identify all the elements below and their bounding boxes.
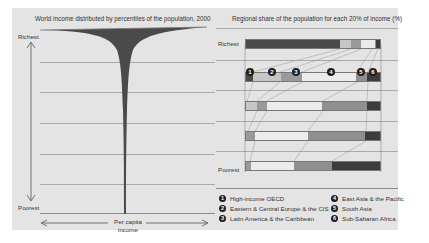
segment-ssa bbox=[367, 102, 380, 110]
legend-label: High-income OECD bbox=[230, 195, 284, 202]
legend-badge-6: 6 bbox=[331, 215, 338, 222]
badge-2: 2 bbox=[268, 68, 276, 76]
legend-badge-2: 2 bbox=[219, 205, 226, 212]
badge-3: 3 bbox=[292, 68, 300, 76]
segment-eap bbox=[251, 162, 294, 170]
legend-label: South Asia bbox=[342, 205, 372, 212]
legend-item-sa: 5 South Asia bbox=[331, 205, 372, 212]
segment-ssa bbox=[365, 132, 380, 140]
segment-lac bbox=[246, 132, 255, 140]
legend-item-eeca: 2 Eastern & Central Europe & the CIS bbox=[219, 205, 329, 212]
segment-eeca bbox=[257, 102, 268, 110]
segment-sa bbox=[322, 102, 366, 110]
legend-item-eap: 4 East Asia & the Pacific bbox=[331, 195, 404, 202]
legend-label: Eastern & Central Europe & the CIS bbox=[230, 205, 329, 212]
bar-fourth bbox=[245, 131, 381, 141]
legend-badge-1: 1 bbox=[219, 195, 226, 202]
legend-badge-4: 4 bbox=[331, 195, 338, 202]
legend-badge-3: 3 bbox=[219, 215, 226, 222]
segment-sa bbox=[308, 132, 366, 140]
legend-label: Latin America & the Caribbean bbox=[230, 215, 314, 222]
segment-ssa bbox=[332, 162, 380, 170]
segment-sa bbox=[294, 162, 332, 170]
legend-badge-5: 5 bbox=[331, 205, 338, 212]
segment-eap bbox=[267, 102, 322, 110]
bar-richest bbox=[245, 39, 381, 49]
segment-oecd bbox=[246, 40, 340, 48]
segment-eap bbox=[255, 132, 307, 140]
badge-6: 6 bbox=[369, 68, 377, 76]
legend-item-oecd: 1 High-income OECD bbox=[219, 195, 284, 202]
badge-5: 5 bbox=[357, 68, 365, 76]
badge-4: 4 bbox=[327, 68, 335, 76]
segment-oecd bbox=[246, 102, 257, 110]
segment-eeca bbox=[340, 40, 351, 48]
legend-label: East Asia & the Pacific bbox=[342, 195, 404, 202]
bar-third bbox=[245, 101, 381, 111]
segment-ssa bbox=[376, 40, 380, 48]
segment-lac bbox=[351, 40, 362, 48]
badge-1: 1 bbox=[246, 68, 254, 76]
bar-poorest bbox=[245, 161, 381, 171]
segment-eeca bbox=[253, 73, 281, 81]
legend-item-lac: 3 Latin America & the Caribbean bbox=[219, 215, 314, 222]
legend-label: Sub-Saharan Africa bbox=[342, 215, 396, 222]
segment-eap bbox=[361, 40, 374, 48]
legend-item-ssa: 6 Sub-Saharan Africa bbox=[331, 215, 396, 222]
